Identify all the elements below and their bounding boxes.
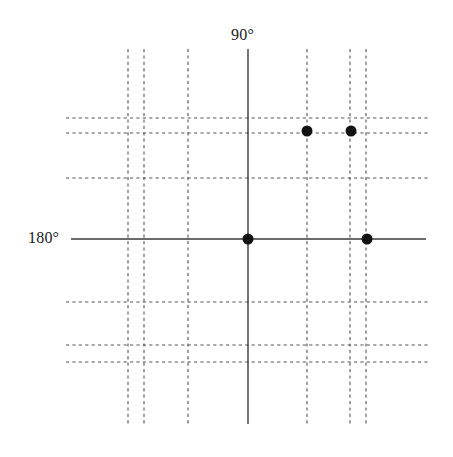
data-point xyxy=(346,126,357,137)
vertical-axis-label: 90° xyxy=(231,26,254,44)
data-point xyxy=(302,126,313,137)
plot-canvas xyxy=(0,0,453,457)
data-point xyxy=(243,234,254,245)
horizontal-axis-label: 180° xyxy=(28,229,59,247)
scatter-figure: 90° 180° xyxy=(0,0,453,457)
data-point xyxy=(362,234,373,245)
